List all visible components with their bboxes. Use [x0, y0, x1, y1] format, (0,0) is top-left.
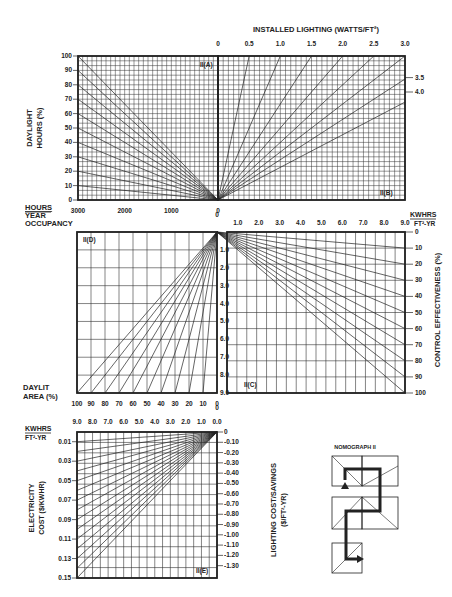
x-tick-kwhrs-e: 7.0: [104, 418, 113, 425]
x-tick-kwhrs-e: 9.0: [72, 418, 81, 425]
y-tick-daylight: 80: [65, 81, 73, 88]
ft2yr-label-e: FT²-YR: [25, 434, 47, 441]
right-tick-lighting-cost: -0.80: [224, 510, 239, 517]
key-path-arrow: [345, 469, 380, 559]
x-tick-watts: 1.5: [307, 40, 316, 47]
right-tick-lighting-cost: -0.60: [224, 490, 239, 497]
right-tick-kwhrs: 7.0: [220, 353, 229, 360]
electricity-cost-title: ELECTRICITY COST ($/KWHR): [27, 481, 46, 535]
y-tick-daylight: 10: [65, 182, 73, 189]
right-tick-lighting-cost: -0.50: [224, 479, 239, 486]
x-tick-kwhrs-e: 8.0: [88, 418, 97, 425]
daylit-label: DAYLIT: [23, 383, 50, 392]
right-tick-kwhrs: 5.0: [220, 317, 229, 324]
x-tick-kwhrs: 6.0: [338, 219, 347, 226]
x-tick-kwhrs-e: 3.0: [166, 418, 175, 425]
right-tick-kwhrs: 9.0: [220, 389, 229, 396]
x-tick-watts: 0: [216, 40, 220, 47]
quadrant-label-b: II(B): [380, 189, 393, 197]
right-tick-lighting-cost: -0.20: [224, 449, 239, 456]
axis-ticks: 0102030405060708090100300020001000000.51…: [58, 40, 426, 581]
y-tick-electricity: 0.15: [58, 574, 71, 581]
right-tick-watts: 4.0: [415, 88, 424, 95]
ft2yr-label-c: FT²-YR: [414, 220, 436, 227]
right-tick-lighting-cost: -0.10: [224, 438, 239, 445]
x-tick-hours: 3000: [71, 207, 86, 214]
x-tick-kwhrs: 7.0: [359, 219, 368, 226]
x-tick-kwhrs-e: 0.0: [212, 418, 221, 425]
y-tick-daylight: 70: [65, 95, 73, 102]
fan-line: [217, 232, 405, 313]
nomograph-chart: 0102030405060708090100300020001000000.51…: [0, 0, 452, 597]
y-tick-daylight: 50: [65, 124, 73, 131]
x-tick-daylit-area: 10: [199, 400, 207, 407]
right-tick-lighting-cost: -1.10: [224, 541, 239, 548]
quadrant-label-e: II(E): [196, 567, 208, 575]
y-tick-electricity: 0.09: [58, 516, 71, 523]
x-tick-daylit-area: 60: [129, 400, 137, 407]
x-tick-kwhrs: 8.0: [380, 219, 389, 226]
right-tick-lighting-cost: -0.40: [224, 469, 239, 476]
right-tick-control: 20: [415, 260, 423, 267]
x-tick-watts: 3.0: [400, 40, 409, 47]
fan-line: [217, 232, 405, 248]
x-tick-kwhrs-e: 4.0: [150, 418, 159, 425]
nomograph-key: [332, 456, 398, 573]
x-tick-kwhrs-e: 5.0: [135, 418, 144, 425]
y-tick-electricity: 0.11: [59, 535, 72, 542]
x-tick-daylit-area: 20: [185, 400, 193, 407]
fan-line: [147, 232, 217, 393]
control-effectiveness-title: CONTROL EFFECTIVENESS (%): [433, 252, 442, 367]
electricity-cost-line2: COST ($/KWHR): [38, 481, 46, 535]
x-tick-kwhrs: 2.0: [254, 219, 263, 226]
x-tick-hours: 1000: [164, 207, 179, 214]
fan-line: [203, 232, 217, 393]
right-tick-control: 10: [415, 244, 423, 251]
right-tick-control: 30: [415, 276, 423, 283]
installed-lighting-title: INSTALLED LIGHTING (WATTS/FT²): [253, 25, 379, 34]
right-tick-control: 100: [415, 389, 426, 396]
fan-line: [91, 232, 217, 393]
fan-line: [217, 232, 405, 377]
x-tick-kwhrs: 9.0: [400, 219, 409, 226]
daylight-hours-line1: DAYLIGHT: [25, 109, 34, 147]
key-diagonal: [332, 456, 362, 486]
x-tick-watts: 0.5: [245, 40, 254, 47]
x-tick-watts: 1.0: [276, 40, 285, 47]
x-tick-kwhrs-e: 2.0: [181, 418, 190, 425]
key-start-triangle: [341, 482, 349, 489]
y-tick-electricity: 0.07: [58, 496, 71, 503]
right-tick-control: 80: [415, 357, 423, 364]
x-tick-kwhrs: 3.0: [275, 219, 284, 226]
electricity-cost-line1: ELECTRICITY: [27, 483, 36, 532]
y-tick-electricity: 0.03: [58, 457, 71, 464]
fan-line: [119, 232, 217, 393]
quadrant-label-a: II(A): [200, 61, 213, 69]
x-tick-kwhrs: 0: [215, 211, 219, 218]
right-tick-lighting-cost: 0: [224, 428, 228, 435]
x-tick-kwhrs: 4.0: [296, 219, 305, 226]
y-tick-electricity: 0.13: [58, 555, 71, 562]
right-tick-kwhrs: 4.0: [220, 300, 229, 307]
x-tick-kwhrs-e: 6.0: [119, 418, 128, 425]
fan-line: [217, 232, 405, 345]
right-tick-lighting-cost: -0.30: [224, 459, 239, 466]
right-tick-kwhrs: 8.0: [220, 371, 229, 378]
x-tick-hours: 2000: [117, 207, 132, 214]
lighting-cost-line1: LIGHTING COST/SAVINGS: [269, 463, 278, 557]
right-tick-control: 0: [415, 228, 419, 235]
key-end-arrowhead: [357, 555, 364, 563]
right-tick-lighting-cost: -1.20: [224, 551, 239, 558]
x-tick-kwhrs: 1.0: [233, 219, 242, 226]
x-tick-kwhrs-e: 1.0: [197, 418, 206, 425]
right-tick-kwhrs: 3.0: [220, 282, 229, 289]
x-tick-daylit-area: 70: [115, 400, 123, 407]
x-tick-watts: 2.5: [369, 40, 378, 47]
right-tick-lighting-cost: -0.70: [224, 500, 239, 507]
x-tick-watts: 2.0: [338, 40, 347, 47]
quadrant-label-d: II(D): [83, 236, 96, 244]
y-tick-daylight: 40: [65, 138, 73, 145]
quadrant-label-c: II(C): [244, 381, 257, 389]
x-tick-daylit-area: 90: [87, 400, 95, 407]
x-tick-daylit-area: 80: [101, 400, 109, 407]
